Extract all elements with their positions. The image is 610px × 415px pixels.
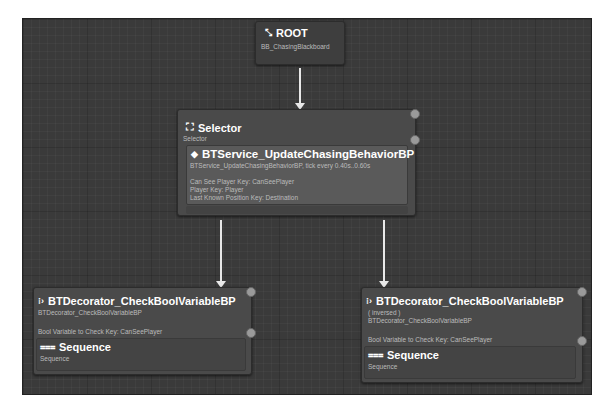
right-sequence-node[interactable]: ⁝› BTDecorator_CheckBoolVariableBP ( inv… [361,287,583,383]
selector-to-right-branch-arrow [383,220,385,282]
decorator-icon: ⁝› [366,296,372,306]
left-sequence-title: Sequence [59,341,111,353]
left-sequence-node[interactable]: ⁝› BTDecorator_CheckBoolVariableBP BTDec… [33,287,252,375]
root-to-selector-arrow [299,68,301,104]
root-node[interactable]: ⤡ ROOT BB_ChasingBlackboard [255,21,345,65]
decorator-icon: ⁝› [38,296,44,306]
selector-top-pin[interactable] [410,109,420,119]
sequence-icon: ⩶ [368,350,383,361]
service-panel[interactable]: ◆ BTService_UpdateChasingBehaviorBP BTSe… [186,145,408,205]
right-top-pin[interactable] [577,287,587,297]
selector-bottom-bar [186,206,408,214]
left-sequence-subtitle: Sequence [40,355,69,363]
selector-icon: ⛶ [186,121,194,134]
selector-subtitle: Selector [183,135,207,143]
service-line-can-see-player: Can See Player Key: CanSeePlayer [190,178,294,186]
right-sequence-panel[interactable]: ⩶ Sequence Sequence [364,346,576,379]
root-title: ROOT [276,27,308,39]
service-tick-info: BTService_UpdateChasingBehaviorBP, tick … [190,162,370,170]
left-decorator-subtitle: BTDecorator_CheckBoolVariableBP [38,309,142,317]
left-sequence-panel[interactable]: ⩶ Sequence Sequence [36,338,246,371]
root-subtitle: BB_ChasingBlackboard [261,43,330,51]
right-decorator-key: Bool Variable to Check Key: CanSeePlayer [368,336,492,344]
sequence-icon: ⩶ [40,342,55,353]
root-icon: ⤡ [265,28,272,39]
left-decorator-title: BTDecorator_CheckBoolVariableBP [48,295,236,307]
service-line-last-known-position: Last Known Position Key: Destination [190,194,298,202]
right-decorator-subtitle: BTDecorator_CheckBoolVariableBP [368,317,472,325]
right-sequence-subtitle: Sequence [368,363,397,371]
right-side-pin[interactable] [577,336,587,346]
service-icon: ◆ [191,149,198,159]
selector-title: Selector [198,122,241,134]
selector-to-left-branch-arrow [220,220,222,282]
left-top-pin[interactable] [246,287,256,297]
selector-node[interactable]: ⛶ Selector Selector ◆ BTService_UpdateCh… [177,109,416,216]
right-decorator-inversed: ( inversed ) [368,309,401,317]
left-side-pin[interactable] [246,328,256,338]
right-sequence-title: Sequence [387,349,439,361]
service-title: BTService_UpdateChasingBehaviorBP [202,148,414,160]
service-line-player-key: Player Key: Player [190,186,243,194]
right-decorator-title: BTDecorator_CheckBoolVariableBP [376,295,564,307]
selector-side-pin[interactable] [410,135,420,145]
left-decorator-key: Bool Variable to Check Key: CanSeePlayer [38,328,162,336]
